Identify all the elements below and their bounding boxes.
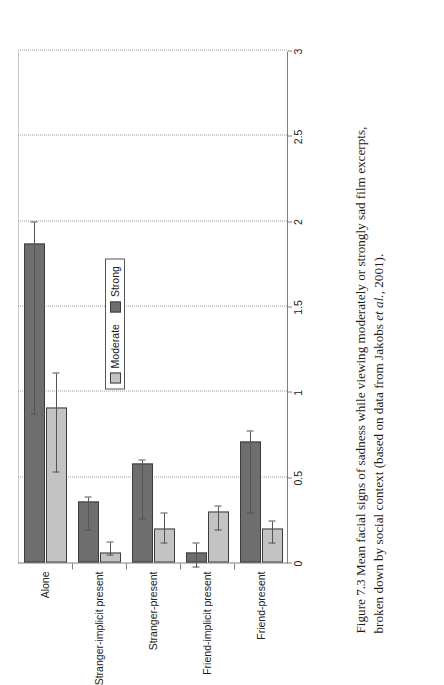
figure-7-3: 00.511.522.53 AloneStranger-implicit pre… [8, 33, 326, 633]
strong-swatch [110, 301, 121, 312]
errorbar-cap-lower [247, 512, 254, 513]
category-label-stranger-implicit-present: Stranger-implicit present [93, 571, 105, 685]
category-label-alone: Alone [39, 571, 51, 598]
gridline-2-5 [18, 134, 287, 135]
caption-line-2a: broken down by social context (based on … [371, 320, 386, 633]
value-tick-label-1: 1 [292, 389, 304, 395]
value-tick-label-3: 3 [292, 48, 304, 54]
caption-et-al: et al. [371, 294, 386, 320]
errorbar-cap-lower [269, 542, 276, 543]
legend-item-moderate: Moderate [109, 324, 121, 383]
errorbar-cap-upper [53, 372, 60, 373]
errorbar-cap-upper [161, 512, 168, 513]
errorbar-cap-lower [31, 413, 38, 414]
category-tickmark-2 [126, 563, 127, 569]
errorbar-cap-upper [139, 459, 146, 460]
errorbar-cap-upper [107, 541, 114, 542]
errorbar-cap-upper [215, 505, 222, 506]
errorbar-moderate-stranger-implicit-present [110, 542, 111, 556]
value-tick-label-2: 2 [292, 219, 304, 225]
legend-item-strong: Strong [109, 266, 121, 312]
caption-line-2b: , 2001). [371, 253, 386, 294]
gridline-3 [18, 49, 287, 50]
errorbar-strong-stranger-present [142, 460, 143, 520]
legend-label-moderate: Moderate [109, 324, 121, 368]
errorbar-moderate-friend-present [272, 521, 273, 543]
errorbar-cap-lower [193, 566, 200, 567]
caption-line-1: Mean facial signs of sadness while viewi… [353, 126, 368, 575]
category-label-friend-implicit-present: Friend-implicit present [201, 571, 213, 674]
errorbar-cap-upper [85, 496, 92, 497]
gridline-2 [18, 220, 287, 221]
errorbar-cap-lower [161, 542, 168, 543]
errorbar-cap-lower [107, 554, 114, 555]
errorbar-cap-lower [215, 529, 222, 530]
errorbar-cap-lower [85, 529, 92, 530]
errorbar-strong-alone [34, 222, 35, 413]
errorbar-cap-upper [31, 221, 38, 222]
gridline-1-5 [18, 305, 287, 306]
legend: Moderate Strong [105, 258, 125, 389]
plot-area [18, 51, 288, 563]
caption-number: Figure 7.3 [353, 579, 368, 633]
category-label-friend-present: Friend-present [255, 571, 267, 639]
errorbar-strong-friend-implicit-present [196, 543, 197, 567]
errorbar-cap-upper [193, 542, 200, 543]
errorbar-moderate-friend-implicit-present [218, 506, 219, 530]
errorbar-moderate-stranger-present [164, 513, 165, 544]
errorbar-cap-lower [139, 518, 146, 519]
errorbar-moderate-alone [56, 373, 57, 472]
moderate-swatch [110, 372, 121, 383]
errorbar-cap-upper [269, 520, 276, 521]
errorbar-cap-upper [247, 430, 254, 431]
errorbar-strong-friend-present [250, 431, 251, 513]
value-tick-label-0.5: 0.5 [292, 470, 304, 485]
value-tick-label-1.5: 1.5 [292, 300, 304, 315]
errorbar-cap-lower [53, 471, 60, 472]
legend-label-strong: Strong [109, 266, 121, 297]
figure-caption: Figure 7.3 Mean facial signs of sadness … [352, 33, 388, 633]
category-tickmark-3 [180, 563, 181, 569]
value-tick-label-0: 0 [292, 560, 304, 566]
gridline-1 [18, 390, 287, 391]
errorbar-strong-stranger-implicit-present [88, 497, 89, 529]
value-tick-label-2.5: 2.5 [292, 129, 304, 144]
category-tickmark-4 [234, 563, 235, 569]
category-tickmark-1 [72, 563, 73, 569]
category-label-stranger-present: Stranger-present [147, 571, 159, 650]
